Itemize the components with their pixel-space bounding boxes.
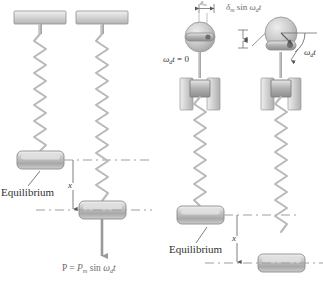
amplitude-delta-subscript: m (230, 7, 234, 13)
amplitude-time: t (259, 2, 262, 12)
applied-force-label: P = Pm sin ωdt (62, 264, 116, 274)
forced-oscillation-figure (0, 0, 323, 285)
displacement-label-right: x (232, 234, 236, 243)
phase-zero-label: ωdt = 0 (163, 55, 189, 66)
force-sin: sin (90, 263, 101, 273)
phase-angle-label: ωdt (304, 48, 316, 59)
amplitude-marker-subscript: m (203, 2, 206, 7)
phase-zero-value: = 0 (177, 54, 189, 64)
slider-block-b (271, 80, 291, 97)
force-omega: ω (103, 263, 110, 273)
mass-left-equilibrium (17, 151, 64, 169)
slider-block-a (190, 80, 210, 97)
connecting-rod-a (198, 52, 201, 78)
equilibrium-label-left: Equilibrium (1, 187, 54, 198)
displacement-label-left: x (68, 181, 72, 190)
equilibrium-label-right: Equilibrium (169, 244, 222, 255)
crank-disc-a (185, 22, 215, 52)
amplitude-marker-label: δm (200, 0, 207, 8)
mass-right-equilibrium (177, 206, 224, 224)
phase-angle-time: t (313, 47, 316, 57)
connecting-rod-b (279, 52, 282, 78)
force-time: t (113, 263, 116, 273)
force-amplitude-subscript: m (83, 267, 88, 274)
force-symbol: P (62, 263, 67, 273)
force-equals: = (69, 263, 74, 273)
amplitude-sin: sin (237, 2, 248, 12)
phase-zero-time: t (172, 54, 175, 64)
amplitude-expression-label: δm sin ωdt (226, 3, 261, 14)
